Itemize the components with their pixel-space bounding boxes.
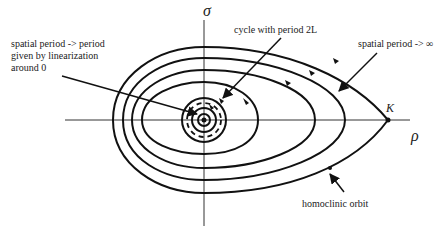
origin-point (202, 118, 207, 123)
axes (65, 20, 410, 226)
homoclinic-arrow (330, 174, 344, 192)
infinite-period-arrow (339, 53, 377, 91)
saddle-point-k (386, 118, 391, 123)
cycle-label: cycle with period 2L (234, 24, 317, 35)
orbit-ellipse-3 (123, 58, 345, 180)
phase-portrait-diagram: σ ρ K spatial period -> period given by … (0, 0, 437, 230)
infinite-period-label: spatial period -> ∞ (358, 38, 433, 49)
sigma-axis-label: σ (203, 2, 212, 19)
rho-axis-label: ρ (410, 127, 419, 145)
linearization-label-line2: given by linearization (11, 50, 98, 61)
cycle-arrow (223, 38, 281, 98)
linearization-label-line3: around 0 (11, 62, 46, 73)
linearization-arrow (62, 76, 197, 114)
linearization-label-line1: spatial period -> period (11, 38, 105, 49)
point-k-label: K (385, 101, 395, 115)
homoclinic-label: homoclinic orbit (302, 198, 369, 209)
homoclinic-marker (328, 166, 332, 170)
orbit-ellipse-1 (142, 82, 258, 154)
